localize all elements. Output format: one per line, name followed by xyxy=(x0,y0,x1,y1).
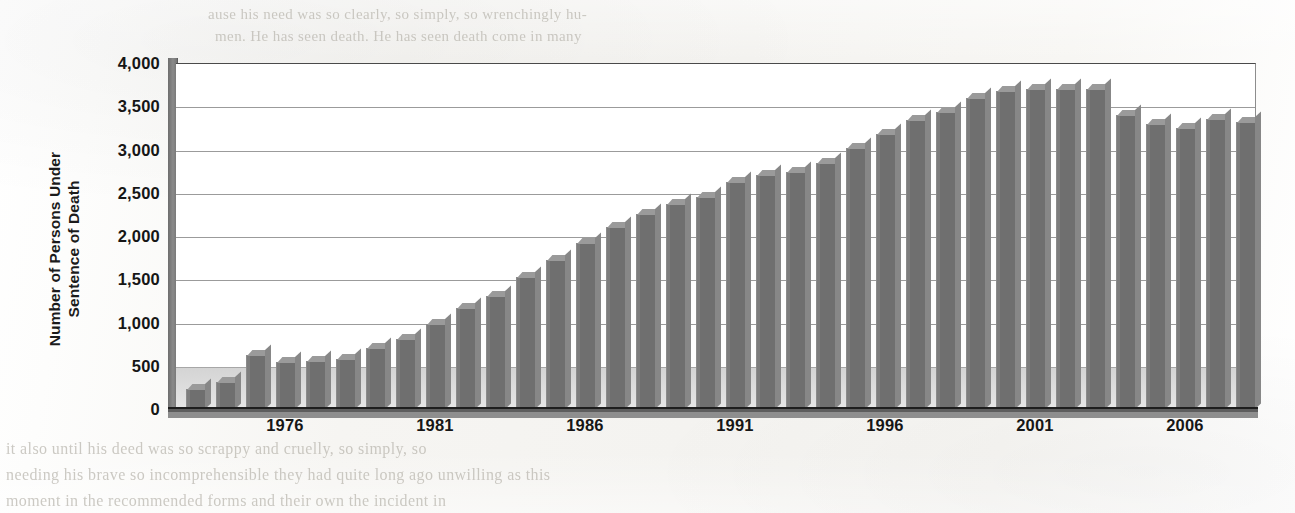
bar xyxy=(186,389,205,409)
bar-side-face xyxy=(625,216,631,409)
bar xyxy=(816,163,835,409)
bar-side-face xyxy=(1255,111,1261,409)
bar-side-face xyxy=(385,337,391,409)
bar-side-face xyxy=(1195,117,1201,409)
bar xyxy=(876,134,895,409)
bar-side-face xyxy=(985,87,991,409)
bar-side-face xyxy=(1075,79,1081,409)
bar xyxy=(1056,89,1075,409)
bar-side-face xyxy=(1045,79,1051,409)
bar xyxy=(1026,89,1045,409)
bar xyxy=(426,324,445,409)
bar xyxy=(396,339,415,409)
bar-side-face xyxy=(805,162,811,409)
bar xyxy=(606,227,625,409)
x-tick-label: 1986 xyxy=(545,416,625,435)
y-tick-label: 3,000 xyxy=(74,141,160,160)
bar xyxy=(996,91,1015,409)
bar xyxy=(366,348,385,409)
bar-side-face xyxy=(955,102,961,409)
y-tick-label: 3,500 xyxy=(74,97,160,116)
bar xyxy=(696,197,715,409)
bar xyxy=(1236,122,1255,409)
bar xyxy=(1146,124,1165,409)
bar-side-face xyxy=(325,351,331,409)
y-tick-label: 500 xyxy=(74,357,160,376)
bar-side-face xyxy=(535,267,541,409)
bar-side-face xyxy=(865,137,871,409)
bar xyxy=(486,296,505,409)
bar xyxy=(216,382,235,409)
bar-side-face xyxy=(1015,80,1021,409)
x-tick-label: 1976 xyxy=(245,416,325,435)
bar-side-face xyxy=(835,153,841,409)
x-tick-label: 2001 xyxy=(995,416,1075,435)
x-tick-label: 1991 xyxy=(695,416,775,435)
bar xyxy=(276,362,295,409)
bar-side-face xyxy=(445,314,451,409)
bar-side-face xyxy=(505,285,511,409)
bar-side-face xyxy=(925,110,931,409)
bar-side-face xyxy=(715,187,721,409)
bar-side-face xyxy=(745,172,751,409)
bar xyxy=(1086,89,1105,409)
x-tick-label: 2006 xyxy=(1145,416,1225,435)
bar-side-face xyxy=(1135,105,1141,409)
y-tick-label: 2,500 xyxy=(74,184,160,203)
bar xyxy=(936,112,955,409)
bar-side-face xyxy=(1225,109,1231,409)
bar xyxy=(246,355,265,409)
bar-side-face xyxy=(295,351,301,409)
bar xyxy=(966,98,985,409)
x-tick-label: 1996 xyxy=(845,416,925,435)
bar xyxy=(546,260,565,409)
bar-side-face xyxy=(205,378,211,409)
bar-side-face xyxy=(1165,113,1171,409)
y-tick-label: 4,000 xyxy=(74,54,160,73)
bar-side-face xyxy=(475,298,481,409)
y-axis-title-line-1: Number of Persons Under xyxy=(45,99,64,399)
bar xyxy=(306,361,325,409)
bar-side-face xyxy=(355,349,361,409)
y-axis-tick-labels: 05001,0001,5002,0002,5003,0003,5004,000 xyxy=(74,55,160,415)
y-tick-label: 1,500 xyxy=(74,270,160,289)
bar-side-face xyxy=(685,194,691,409)
bar-chart: Number of Persons Under Sentence of Deat… xyxy=(0,0,1295,513)
bar-side-face xyxy=(655,203,661,409)
bar-side-face xyxy=(895,124,901,409)
bar xyxy=(756,175,775,409)
x-tick-label: 1981 xyxy=(395,416,475,435)
bar xyxy=(1176,128,1195,409)
bar-side-face xyxy=(565,249,571,409)
bar-side-face xyxy=(595,232,601,409)
bar xyxy=(336,359,355,409)
bar xyxy=(636,214,655,409)
bar xyxy=(516,277,535,409)
bar xyxy=(726,182,745,409)
bar xyxy=(576,243,595,409)
bar-side-face xyxy=(265,344,271,409)
bar xyxy=(1116,115,1135,409)
bar-side-face xyxy=(235,371,241,409)
bar xyxy=(846,148,865,409)
x-axis-tick-labels: 1976198119861991199620012006 xyxy=(0,416,1295,450)
bar xyxy=(906,120,925,409)
plot-area xyxy=(176,63,1256,409)
bar-side-face xyxy=(415,329,421,409)
bar-side-face xyxy=(1105,79,1111,409)
bar xyxy=(786,172,805,409)
y-tick-label: 2,000 xyxy=(74,227,160,246)
bar xyxy=(1206,119,1225,409)
bar xyxy=(666,204,685,409)
bar xyxy=(456,308,475,409)
y-tick-label: 1,000 xyxy=(74,314,160,333)
bar-side-face xyxy=(775,165,781,409)
